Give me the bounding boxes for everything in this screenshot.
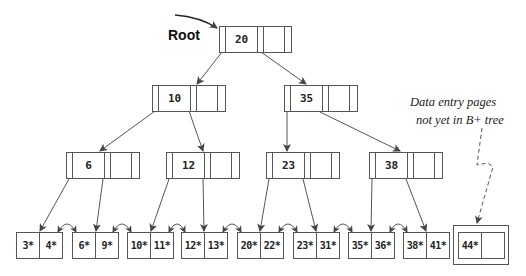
b-plus-tree-diagram: Root Data entry pages not yet in B+ tree… <box>0 0 526 276</box>
data-entry: 41* <box>426 233 449 258</box>
leaf-page: 35* 36* <box>348 232 395 259</box>
leaf-page: 12* 13* <box>181 232 228 259</box>
leaf-page: 6* 9* <box>72 232 119 259</box>
data-entry: 9* <box>95 233 118 258</box>
data-entry: 35* <box>349 233 371 258</box>
root-label: Root <box>168 27 200 43</box>
data-entry: 10* <box>128 233 150 258</box>
node-key: 10 <box>159 86 191 111</box>
index-node-23: 23 <box>266 152 340 179</box>
index-node-12: 12 <box>166 152 240 179</box>
node-key: 23 <box>273 153 305 178</box>
index-node-35: 35 <box>284 85 358 112</box>
leaf-page: 20* 22* <box>237 232 284 259</box>
node-key: 20 <box>226 27 258 52</box>
data-entry: 4* <box>39 233 62 258</box>
node-key: 35 <box>291 86 323 111</box>
data-entry: 22* <box>260 233 283 258</box>
data-entry: 12* <box>182 233 204 258</box>
data-entry: 36* <box>371 233 394 258</box>
index-node-6: 6 <box>66 152 140 179</box>
root-node-20: 20 <box>219 26 292 53</box>
note-line-1: Data entry pages <box>410 95 496 110</box>
node-key: 6 <box>73 153 105 178</box>
data-entry: 20* <box>238 233 260 258</box>
data-entry-empty <box>481 233 504 258</box>
leaf-page: 10* 11* <box>127 232 174 259</box>
index-node-38: 38 <box>369 152 443 179</box>
data-entry: 3* <box>17 233 39 258</box>
data-entry: 44* <box>459 233 481 258</box>
data-entry: 6* <box>73 233 95 258</box>
data-entry: 13* <box>204 233 227 258</box>
note-line-2: not yet in B+ tree <box>416 113 504 128</box>
node-key: 38 <box>376 153 408 178</box>
data-entry: 31* <box>316 233 339 258</box>
data-entry: 38* <box>404 233 426 258</box>
note-dashed-arrow <box>477 128 493 223</box>
node-key: 12 <box>173 153 205 178</box>
leaf-page: 38* 41* <box>403 232 450 259</box>
data-entry: 11* <box>150 233 173 258</box>
leaf-page: 3* 4* <box>16 232 63 259</box>
leaf-page: 23* 31* <box>293 232 340 259</box>
index-node-10: 10 <box>152 85 226 112</box>
pending-leaf-page: 44* <box>458 232 505 259</box>
data-entry: 23* <box>294 233 316 258</box>
